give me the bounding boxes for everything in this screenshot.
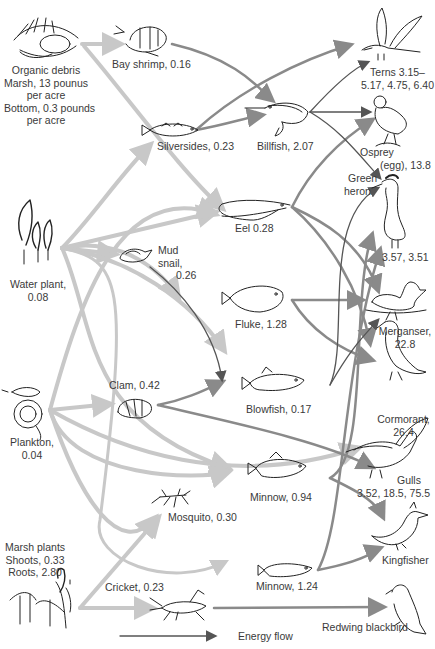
label-line: Osprey — [360, 146, 431, 159]
label-line: Gulls — [357, 474, 430, 487]
label-line: Marsh plants — [2, 541, 68, 554]
label-line: heron — [344, 185, 377, 198]
label-line: Water plant, — [6, 278, 70, 291]
label-line: snail, — [158, 257, 196, 270]
billfish-icon — [245, 103, 308, 136]
label-line: Shoots, 0.33 — [2, 554, 68, 567]
label-line: 22.8 — [375, 338, 435, 351]
label-line: Merganser, — [375, 325, 435, 338]
cricket-icon — [150, 590, 206, 620]
label-line: Cormorant, — [372, 413, 435, 426]
node-label-plankton: Plankton, 0.04 — [2, 436, 62, 461]
debris-icon — [14, 18, 78, 58]
mosquito-icon — [152, 489, 190, 507]
label-line: 0.04 — [2, 449, 62, 462]
node-label-green-heron: Green heron — [344, 172, 377, 197]
node-label-minnow-2: Minnow, 1.24 — [256, 580, 318, 593]
legend-energy-flow: Energy flow — [238, 630, 293, 643]
node-label-merganser: Merganser, 22.8 — [375, 325, 435, 350]
node-label-terns: Terns 3.15– 5.17, 4.75, 6.40 — [360, 66, 435, 91]
flatfish-icon — [222, 286, 283, 312]
label-line: Green — [344, 172, 377, 185]
node-label-blowfish: Blowfish, 0.17 — [246, 403, 311, 416]
duck-icon — [366, 282, 426, 320]
node-label-marsh-plants: Marsh plants Shoots, 0.33 Roots, 2.80 — [2, 541, 68, 579]
node-label-cormorant: Cormorant, 26.4 — [372, 413, 435, 438]
water-plant-icon — [19, 200, 52, 264]
minnow-icon — [258, 564, 312, 577]
label-line: Mud — [158, 244, 196, 257]
kingfisher-icon — [372, 502, 428, 550]
label-line: Organic debris — [4, 64, 88, 77]
label-line: Marsh, 13 pounus — [4, 77, 88, 90]
node-label-silversides: Silversides, 0.23 — [157, 140, 234, 153]
node-label-organic-debris: Organic debris Marsh, 13 pounus per acre… — [4, 64, 88, 127]
node-label-osprey: Osprey (egg), 13.8 — [360, 146, 431, 171]
label-line: per acre — [4, 89, 88, 102]
node-label-bay-shrimp: Bay shrimp, 0.16 — [112, 58, 191, 71]
osprey-icon — [374, 96, 406, 146]
eel-icon — [219, 200, 290, 220]
label-line: 5.17, 4.75, 6.40 — [360, 79, 435, 92]
label-line: Bottom, 0.3 pounds — [4, 102, 88, 115]
label-line: Roots, 2.80 — [2, 566, 68, 579]
node-label-mosquito: Mosquito, 0.30 — [168, 511, 237, 524]
node-label-kingfisher: Kingfisher — [382, 554, 429, 567]
plankton-icon — [2, 388, 42, 441]
node-label-billfish: Billfish, 2.07 — [257, 140, 314, 153]
label-line: Terns 3.15– — [360, 66, 435, 79]
node-label-eel: Eel 0.28 — [235, 222, 274, 235]
shrimp-icon — [114, 26, 166, 56]
label-line: 0.26 — [158, 269, 196, 282]
node-label-fluke: Fluke, 1.28 — [235, 318, 287, 331]
label-line: per acre — [4, 114, 88, 127]
node-label-redwing-blackbird: Redwing blackbird — [322, 621, 408, 634]
node-label-minnow-1: Minnow, 0.94 — [250, 491, 312, 504]
label-line: Plankton, — [2, 436, 62, 449]
node-label-mud-snail: Mud snail, 0.26 — [158, 244, 196, 282]
node-label-cricket: Cricket, 0.23 — [105, 581, 164, 594]
label-line: 3.52, 18.5, 75.5 — [357, 487, 430, 500]
tern-icon — [362, 8, 422, 60]
node-label-water-plant: Water plant, 0.08 — [6, 278, 70, 303]
blowfish-icon — [242, 367, 304, 391]
label-line: 0.08 — [6, 291, 70, 304]
node-label-gulls: Gulls 3.52, 18.5, 75.5 — [357, 474, 430, 499]
node-value-green-heron: 3.57, 3.51 — [382, 251, 429, 264]
label-line: 26.4 — [372, 426, 435, 439]
label-line: (egg), 13.8 — [360, 159, 431, 172]
node-label-clam: Clam, 0.42 — [109, 379, 160, 392]
